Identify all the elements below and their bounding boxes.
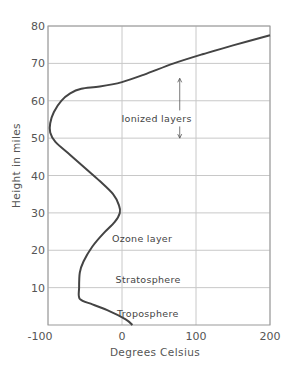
y-tick-label: 40 (31, 170, 45, 183)
y-tick-label: 50 (31, 132, 45, 145)
temperature-height-chart: 1020304050607080 -1000100200 Height in m… (0, 0, 287, 366)
y-tick-label: 70 (31, 57, 45, 70)
x-axis-label: Degrees Celsius (110, 346, 200, 358)
x-tick-label: 0 (119, 330, 126, 343)
y-tick-label: 80 (31, 20, 45, 33)
x-tick-label: -100 (28, 330, 53, 343)
x-tick-label: 200 (260, 330, 281, 343)
annotations: Ionized layersOzone layerStratosphereTro… (112, 78, 192, 318)
y-tick-label: 30 (31, 207, 45, 220)
y-axis-ticks: 1020304050607080 (31, 20, 45, 295)
annotation-ozone-layer: Ozone layer (112, 233, 172, 244)
annotation-ionized-layers: Ionized layers (122, 113, 192, 124)
y-tick-label: 20 (31, 244, 45, 257)
annotation-stratosphere: Stratosphere (116, 274, 181, 285)
x-tick-label: 100 (186, 330, 207, 343)
y-tick-label: 60 (31, 95, 45, 108)
y-axis-label: Height in miles (10, 123, 22, 208)
annotation-troposphere: Troposphere (116, 308, 178, 319)
y-tick-label: 10 (31, 282, 45, 295)
x-axis-ticks: -1000100200 (28, 330, 281, 343)
